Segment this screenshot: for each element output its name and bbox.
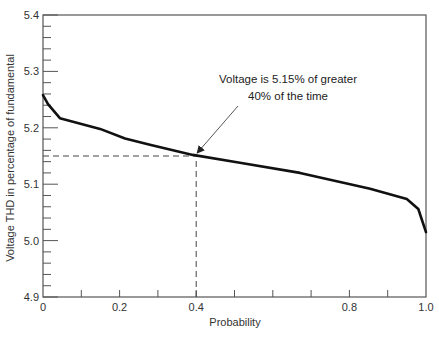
data-series (43, 95, 426, 232)
reference-dashed-lines (43, 156, 196, 297)
x-axis-title: Probability (209, 316, 261, 328)
y-tick-label: 5.1 (24, 178, 39, 190)
x-tick-label: 0.4 (189, 301, 204, 313)
y-axis-ticks: 4.95.05.15.25.35.4 (24, 9, 58, 303)
plot-frame (43, 15, 426, 297)
x-axis-ticks: 00.20.40.81.0 (40, 290, 434, 313)
y-tick-label: 5.4 (24, 9, 39, 21)
x-tick-label: 0.2 (112, 301, 127, 313)
annotation-line-2: 40% of the time (248, 90, 328, 102)
y-tick-label: 5.0 (24, 235, 39, 247)
x-tick-label: 0.8 (342, 301, 357, 313)
annotation: Voltage is 5.15% of greater 40% of the t… (197, 73, 357, 153)
annotation-line-1: Voltage is 5.15% of greater (219, 73, 357, 85)
annotation-arrow (197, 106, 238, 153)
y-tick-label: 5.3 (24, 65, 39, 77)
thd-curve (43, 95, 426, 232)
thd-probability-chart: 4.95.05.15.25.35.4 00.20.40.81.0 Voltage… (0, 0, 439, 339)
x-tick-label: 1.0 (418, 301, 433, 313)
plot-border (43, 15, 426, 297)
y-axis-title: Voltage THD in percentage of fundamental (4, 54, 16, 262)
y-tick-label: 4.9 (24, 291, 39, 303)
y-tick-label: 5.2 (24, 122, 39, 134)
x-tick-label: 0 (40, 301, 46, 313)
